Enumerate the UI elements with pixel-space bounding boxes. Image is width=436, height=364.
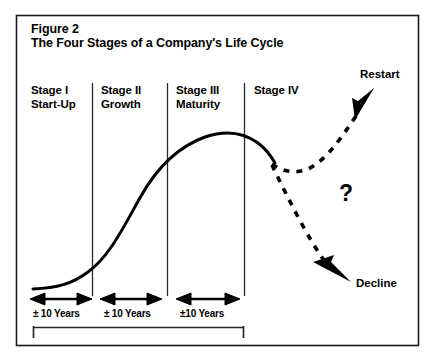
uncertainty-question-mark: ? — [339, 180, 353, 207]
stage-1-name: Stage I — [31, 84, 68, 98]
figure-container: Figure 2 The Four Stages of a Company's … — [0, 0, 436, 364]
stage-2-sub: Growth — [101, 98, 141, 112]
figure-title-line-2: The Four Stages of a Company's Life Cycl… — [31, 36, 283, 51]
stage-3-sub: Maturity — [176, 98, 220, 112]
stage-3-name: Stage III — [176, 84, 219, 98]
duration-label-3: ±10 Years — [180, 308, 224, 320]
stage-2-name: Stage II — [101, 84, 141, 98]
duration-label-1: ± 10 Years — [33, 308, 80, 320]
restart-label: Restart — [360, 68, 400, 82]
figure-title-line-1: Figure 2 — [31, 22, 79, 37]
duration-label-2: ± 10 Years — [104, 308, 151, 320]
decline-label: Decline — [356, 277, 397, 291]
stage-4-name: Stage IV — [254, 84, 299, 98]
stage-1-sub: Start-Up — [31, 98, 76, 112]
